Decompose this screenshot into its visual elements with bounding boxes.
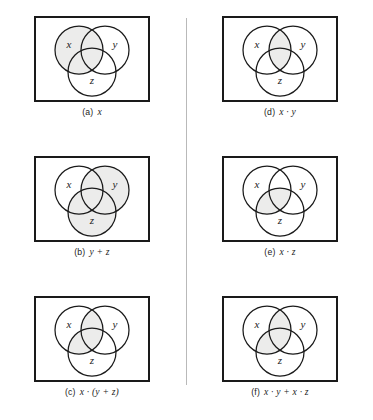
panel-c-venn: x y z xyxy=(34,296,150,382)
panel-d: x y z (d)x · y xyxy=(200,12,360,152)
label-z: z xyxy=(89,214,95,226)
label-y: y xyxy=(112,38,118,50)
panel-e-caption: (e)x · z xyxy=(200,246,360,257)
panel-c: x y z (c)x · (y + z) xyxy=(12,292,172,420)
label-x: x xyxy=(66,178,72,190)
panel-c-expression: x · (y + z) xyxy=(80,386,119,397)
label-z: z xyxy=(277,214,283,226)
panel-f-tag: (f) xyxy=(251,387,260,397)
panel-a: x y z (a)x xyxy=(12,12,172,152)
panel-d-venn: x y z xyxy=(222,16,338,102)
panel-d-caption: (d)x · y xyxy=(200,106,360,117)
panel-f-venn: x y z xyxy=(222,296,338,382)
panel-c-caption: (c)x · (y + z) xyxy=(12,386,172,397)
label-y: y xyxy=(300,38,306,50)
label-z: z xyxy=(89,354,95,366)
panel-f-caption: (f)x · y + x · z xyxy=(200,386,360,397)
panel-a-caption: (a)x xyxy=(12,106,172,117)
label-x: x xyxy=(66,38,72,50)
panel-d-tag: (d) xyxy=(264,107,275,117)
label-x: x xyxy=(66,318,72,330)
panel-f-expression: x · y + x · z xyxy=(264,386,309,397)
label-z: z xyxy=(89,74,95,86)
panel-a-expression: x xyxy=(97,106,101,117)
label-z: z xyxy=(277,354,283,366)
label-z: z xyxy=(277,74,283,86)
label-y: y xyxy=(112,318,118,330)
panel-b-venn: x y z xyxy=(34,156,150,242)
panel-a-tag: (a) xyxy=(82,107,93,117)
panel-e: x y z (e)x · z xyxy=(200,152,360,292)
panel-e-expression: x · z xyxy=(280,246,296,257)
panel-b-expression: y + z xyxy=(89,246,109,257)
venn-diagram-figure: x y z (a)x x y z (b)y + z xyxy=(0,0,373,420)
panel-e-tag: (e) xyxy=(264,247,275,257)
column-divider xyxy=(186,18,187,385)
label-y: y xyxy=(300,318,306,330)
label-x: x xyxy=(254,318,260,330)
panel-a-venn: x y z xyxy=(34,16,150,102)
panel-b: x y z (b)y + z xyxy=(12,152,172,292)
label-y: y xyxy=(300,178,306,190)
label-y: y xyxy=(112,178,118,190)
label-x: x xyxy=(254,38,260,50)
label-x: x xyxy=(254,178,260,190)
panel-f: x y z (f)x · y + x · z xyxy=(200,292,360,420)
panel-b-caption: (b)y + z xyxy=(12,246,172,257)
panel-d-expression: x · y xyxy=(279,106,296,117)
panel-b-tag: (b) xyxy=(74,247,85,257)
panel-e-venn: x y z xyxy=(222,156,338,242)
panel-c-tag: (c) xyxy=(65,387,76,397)
